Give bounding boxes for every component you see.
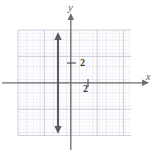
coordinate-plane-svg <box>0 0 157 153</box>
x-axis-tick-label-2: 2 <box>83 84 88 94</box>
graph-figure: y x 2 2 <box>0 0 157 153</box>
x-axis-label: x <box>146 72 150 82</box>
y-axis-arrow <box>68 13 74 20</box>
y-axis-label: y <box>68 2 73 13</box>
y-axis-tick-label-2: 2 <box>80 58 85 68</box>
